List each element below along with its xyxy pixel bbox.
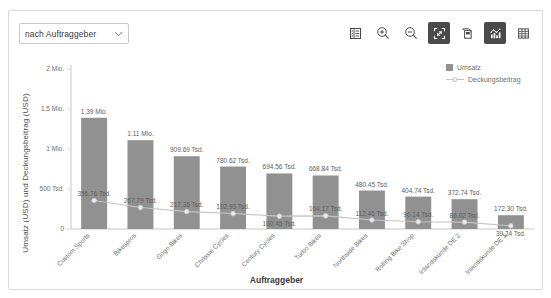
- grouping-dropdown-label: nach Auftraggeber: [25, 29, 113, 39]
- svg-text:668.84 Tsd.: 668.84 Tsd.: [309, 165, 343, 172]
- chevron-down-icon: [113, 29, 123, 39]
- svg-text:780.62 Tsd.: 780.62 Tsd.: [216, 157, 250, 164]
- svg-text:356.76 Tsd.: 356.76 Tsd.: [77, 190, 111, 197]
- svg-text:Gogo Bikes: Gogo Bikes: [155, 231, 185, 261]
- svg-text:Rolling Bike Shop: Rolling Bike Shop: [374, 231, 416, 273]
- svg-text:Turbo Bikes: Turbo Bikes: [293, 231, 323, 261]
- svg-text:372.74 Tsd.: 372.74 Tsd.: [448, 189, 482, 196]
- svg-text:1.39 Mio.: 1.39 Mio.: [81, 108, 108, 115]
- svg-text:1.5 Mio.: 1.5 Mio.: [41, 105, 64, 112]
- svg-text:Bikespros: Bikespros: [112, 231, 138, 257]
- duplicate-icon[interactable]: [456, 22, 478, 44]
- svg-text:160.45 Tsd.: 160.45 Tsd.: [263, 220, 297, 227]
- chart-panel-screen: nach Auftraggeber: [0, 0, 551, 298]
- chart-toolbar: nach Auftraggeber: [9, 11, 542, 55]
- collapse-icon[interactable]: [428, 22, 450, 44]
- svg-text:2 Mio.: 2 Mio.: [46, 65, 64, 72]
- svg-text:Century Cycles: Century Cycles: [240, 231, 277, 268]
- svg-text:217.36 Tsd.: 217.36 Tsd.: [170, 201, 204, 208]
- svg-text:500 Tsd.: 500 Tsd.: [40, 185, 65, 192]
- svg-text:Inlandskunde DE 2: Inlandskunde DE 2: [417, 231, 461, 275]
- svg-text:Northside Bikes: Northside Bikes: [332, 231, 370, 269]
- svg-text:192.93 Tsd.: 192.93 Tsd.: [216, 203, 250, 210]
- svg-text:Custom Sports: Custom Sports: [56, 231, 93, 268]
- svg-text:694.56 Tsd.: 694.56 Tsd.: [263, 163, 297, 170]
- svg-text:1.11 Mio.: 1.11 Mio.: [127, 130, 153, 137]
- svg-text:86.02 Tsd.: 86.02 Tsd.: [450, 212, 480, 219]
- svg-text:480.45 Tsd.: 480.45 Tsd.: [355, 181, 389, 188]
- svg-text:0: 0: [60, 225, 64, 232]
- bar-line-chart: 0500 Tsd.1 Mio.1.5 Mio.2 Mio.1.39 Mio.1.…: [9, 55, 544, 291]
- details-list-icon[interactable]: [344, 22, 366, 44]
- table-view-icon[interactable]: [512, 22, 534, 44]
- svg-text:404.74 Tsd.: 404.74 Tsd.: [402, 187, 436, 194]
- svg-text:112.46 Tsd.: 112.46 Tsd.: [355, 210, 388, 217]
- svg-text:Inlandskunde DE 1: Inlandskunde DE 1: [464, 231, 508, 275]
- x-axis-title: Auftraggeber: [9, 275, 544, 285]
- svg-text:1 Mio.: 1 Mio.: [46, 145, 64, 152]
- svg-text:90.14 Tsd.: 90.14 Tsd.: [403, 211, 433, 218]
- chart-plot-area: Umsatz (USD) und Deckungsbeitrag (USD) U…: [9, 55, 544, 291]
- svg-text:164.17 Tsd.: 164.17 Tsd.: [309, 205, 343, 212]
- svg-text:172.30 Tsd.: 172.30 Tsd.: [494, 205, 528, 212]
- svg-text:267.79 Tsd.: 267.79 Tsd.: [124, 197, 158, 204]
- svg-text:Chrissie Cycles: Chrissie Cycles: [193, 231, 231, 269]
- chart-card: nach Auftraggeber: [8, 10, 543, 290]
- grouping-dropdown[interactable]: nach Auftraggeber: [19, 23, 129, 44]
- zoom-in-icon[interactable]: [372, 22, 394, 44]
- toolbar-buttons: [344, 22, 534, 44]
- svg-text:909.69 Tsd.: 909.69 Tsd.: [170, 146, 204, 153]
- zoom-out-icon[interactable]: [400, 22, 422, 44]
- chart-view-icon[interactable]: [484, 22, 506, 44]
